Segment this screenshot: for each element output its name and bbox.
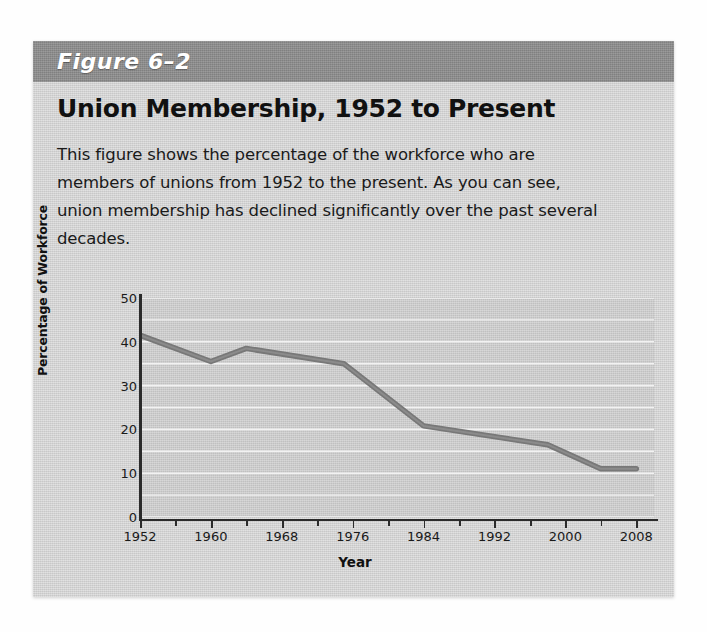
y-axis-tick-label: 20 <box>120 422 137 437</box>
plot-area <box>140 298 654 517</box>
plot-svg <box>140 298 654 517</box>
x-axis-minor-tick <box>601 519 603 526</box>
y-axis-tick-labels: 01020304050 <box>75 286 137 518</box>
x-axis-minor-tick <box>459 519 461 526</box>
data-series-line <box>140 335 636 469</box>
figure-title: Union Membership, 1952 to Present <box>57 94 657 123</box>
x-axis-major-tick <box>282 519 284 528</box>
y-axis-tick-label: 40 <box>120 334 137 349</box>
x-axis-minor-tick <box>530 519 532 526</box>
figure-number-label: Figure 6–2 <box>57 49 191 74</box>
x-axis-major-tick <box>211 519 213 528</box>
x-axis-minor-tick <box>175 519 177 526</box>
figure-page: Figure 6–2 Union Membership, 1952 to Pre… <box>0 0 707 632</box>
figure-card: Figure 6–2 Union Membership, 1952 to Pre… <box>33 41 674 597</box>
x-axis-tick-label: 1968 <box>265 529 298 544</box>
x-axis-major-tick <box>140 519 142 528</box>
figure-description: This figure shows the percentage of the … <box>57 141 602 253</box>
x-axis-major-tick <box>424 519 426 528</box>
x-axis-major-tick <box>565 519 567 528</box>
y-axis-tick-label: 30 <box>120 378 137 393</box>
x-axis-tick-label: 2000 <box>549 529 582 544</box>
x-axis-major-tick <box>353 519 355 528</box>
x-axis-tick-label: 1984 <box>407 529 440 544</box>
x-axis-minor-tick <box>317 519 319 526</box>
x-axis-line <box>139 519 658 521</box>
x-axis-tick-label: 1952 <box>123 529 156 544</box>
x-axis-tick-label: 1960 <box>194 529 227 544</box>
x-axis-minor-tick <box>246 519 248 526</box>
x-axis-major-tick <box>494 519 496 528</box>
figure-label-band: Figure 6–2 <box>33 41 674 82</box>
x-axis-major-tick <box>636 519 638 528</box>
x-axis-tick-label: 1976 <box>336 529 369 544</box>
y-axis-tick-label: 0 <box>129 510 137 525</box>
y-axis-line <box>139 294 142 521</box>
y-axis-tick-label: 50 <box>120 291 137 306</box>
x-axis-minor-tick <box>388 519 390 526</box>
x-axis-tick-label: 1992 <box>478 529 511 544</box>
line-chart: Percentage of Workforce 01020304050 1952… <box>45 286 665 586</box>
x-axis-tick-label: 2008 <box>620 529 653 544</box>
y-axis-title: Percentage of Workforce <box>35 205 50 376</box>
x-axis-title: Year <box>45 554 665 570</box>
y-axis-tick-label: 10 <box>120 466 137 481</box>
